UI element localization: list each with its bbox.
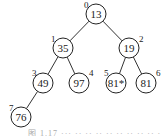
node-index-label: 4 — [89, 68, 94, 78]
tree-edge — [119, 57, 125, 73]
node-index-label: 5 — [104, 68, 109, 78]
node-index-label: 7 — [9, 103, 14, 113]
tree-edge — [67, 57, 75, 74]
node-value: 19 — [124, 42, 136, 54]
tree-node: 816 — [136, 68, 161, 93]
node-index-label: 6 — [156, 68, 161, 78]
tree-node: 130 — [84, 0, 106, 24]
node-value: 35 — [58, 42, 70, 54]
tree-node: 351 — [51, 34, 73, 58]
tree-edge — [103, 21, 122, 41]
node-index-label: 1 — [51, 34, 56, 44]
node-value: 49 — [38, 77, 50, 89]
tree-edge — [48, 57, 58, 75]
tree-node: 974 — [69, 68, 94, 93]
tree-edge — [26, 91, 37, 108]
node-value: 76 — [16, 111, 28, 123]
tree-edge — [133, 57, 141, 74]
node-value: 81* — [108, 77, 125, 89]
tree-node: 192 — [119, 34, 144, 58]
node-value: 13 — [91, 8, 103, 20]
figure-caption: 图 1.17 ··· ·· ·· ·· ·· ·· ·· ·· ·· ·· — [28, 127, 161, 136]
tree-edge — [70, 21, 89, 41]
heap-tree-diagram: 13035119249397481*5816767 — [0, 0, 161, 136]
node-index-label: 0 — [84, 0, 89, 10]
node-index-label: 3 — [32, 68, 37, 78]
node-value: 81 — [141, 77, 152, 89]
node-index-label: 2 — [139, 34, 144, 44]
tree-node: 81*5 — [104, 68, 126, 93]
node-value: 97 — [74, 77, 86, 89]
